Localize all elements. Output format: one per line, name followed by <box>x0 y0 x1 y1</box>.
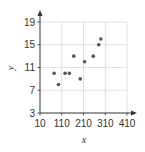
x-tick-label: 110 <box>54 118 70 129</box>
y-tick-label: 19 <box>24 17 36 28</box>
x-tick-label: 310 <box>97 118 114 129</box>
axes <box>38 10 138 116</box>
data-point <box>57 83 61 87</box>
y-tick-label: 15 <box>24 39 36 50</box>
x-axis-arrow-icon <box>131 111 137 116</box>
y-tick-labels: 37111519 <box>24 17 36 119</box>
x-axis-label: x <box>81 134 87 145</box>
data-point <box>83 60 87 64</box>
data-point <box>97 43 101 47</box>
data-point <box>72 54 76 58</box>
x-tick-labels: 10110210310410 <box>34 118 135 129</box>
data-point <box>63 71 67 75</box>
data-point <box>99 37 103 41</box>
scatter-chart: 10110210310410 37111519 x y <box>0 0 145 152</box>
data-point <box>78 77 82 81</box>
y-axis-arrow-icon <box>38 10 43 16</box>
data-point <box>68 71 72 75</box>
y-tick-label: 11 <box>25 62 36 73</box>
y-axis-label: y <box>5 65 16 71</box>
y-tick-label: 7 <box>29 85 35 96</box>
x-tick-label: 10 <box>34 118 46 129</box>
grid-lines <box>40 22 127 113</box>
data-point <box>52 71 56 75</box>
x-tick-label: 410 <box>119 118 136 129</box>
x-tick-label: 210 <box>75 118 92 129</box>
y-tick-label: 3 <box>29 108 35 119</box>
data-point <box>91 54 95 58</box>
